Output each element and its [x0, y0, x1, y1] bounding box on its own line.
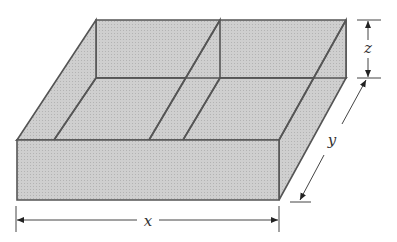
back-wall [96, 20, 346, 78]
front-face [17, 140, 279, 200]
y-label: y [327, 131, 337, 149]
x-label: x [144, 212, 153, 230]
box-diagram: z y x [0, 0, 397, 242]
z-label: z [363, 39, 372, 57]
